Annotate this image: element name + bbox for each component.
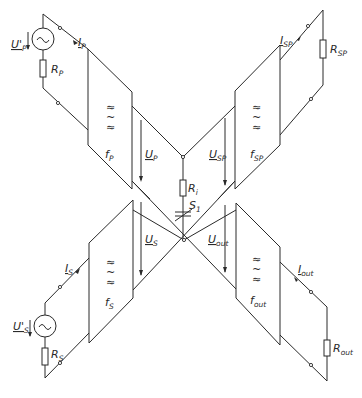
label-rp: RP (51, 63, 64, 78)
ac-source-primary (32, 28, 54, 50)
sine-icon (39, 325, 51, 330)
svg-text:≈: ≈ (252, 273, 261, 286)
wires-center-cross (132, 106, 236, 290)
current-arrow-isp (297, 36, 301, 41)
terminal (58, 285, 61, 288)
label-iout: Iout (298, 263, 315, 278)
terminal (306, 24, 309, 27)
terminal (58, 26, 61, 29)
sine-icon (37, 38, 49, 43)
label-s1: S1 (189, 199, 201, 214)
wires-sp-load (280, 10, 323, 135)
label-up-prime: U'P (11, 38, 27, 53)
resistor-rsp (320, 40, 326, 58)
resistor-rs (42, 348, 48, 365)
label-us: US (145, 233, 158, 248)
terminal (309, 290, 312, 293)
voltage-arrow-us (139, 202, 143, 276)
label-ip: IP (78, 36, 86, 51)
label-ri: Ri (188, 182, 199, 197)
wires-primary-source (43, 14, 88, 130)
svg-text:≈: ≈ (106, 121, 115, 134)
circuit-diagram: U'P RP IP ISP RSP IS U'S RS Iout Rout UP… (0, 0, 362, 398)
resistor-ri (180, 180, 186, 196)
terminal (56, 101, 59, 104)
terminal (309, 363, 312, 366)
voltage-arrow-usp (223, 118, 227, 186)
terminal (309, 97, 312, 100)
label-rout: Rout (333, 342, 354, 357)
voltage-arrow-up (139, 120, 143, 182)
label-isp: ISP (280, 34, 293, 49)
label-us-prime: U'S (13, 320, 29, 335)
resistor-rp (40, 60, 46, 77)
resistor-rout (324, 340, 330, 356)
label-rsp: RSP (330, 43, 347, 58)
svg-text:≈: ≈ (106, 276, 115, 289)
label-is: IS (65, 262, 73, 277)
wires-out-load (280, 262, 327, 381)
svg-text:≈: ≈ (252, 121, 261, 134)
label-uout: Uout (208, 233, 229, 248)
label-up: UP (145, 148, 158, 163)
label-usp: USP (209, 148, 227, 163)
ac-source-secondary (34, 315, 56, 337)
label-rs: RS (51, 348, 64, 363)
